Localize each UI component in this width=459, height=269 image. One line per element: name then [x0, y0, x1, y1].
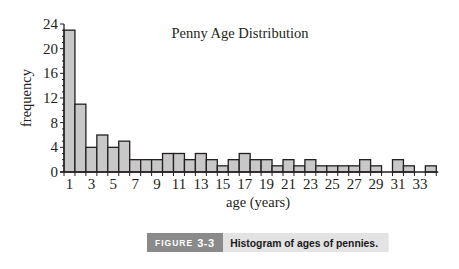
figure-number: 3-3: [197, 237, 214, 249]
histogram-bar: [206, 160, 217, 172]
histogram-bar: [228, 160, 239, 172]
y-tick-label: 24: [43, 16, 59, 32]
histogram-bar: [141, 160, 152, 172]
histogram-bar: [239, 154, 250, 173]
x-tick-label: 5: [110, 176, 118, 192]
x-tick-label: 11: [172, 176, 186, 192]
figure-caption: FIGURE 3-3 Histogram of ages of pennies.: [147, 233, 407, 252]
histogram-bar: [272, 166, 283, 172]
x-tick-label: 27: [347, 176, 363, 192]
x-tick-label: 21: [281, 176, 296, 192]
histogram-bar: [97, 135, 108, 172]
x-tick-label: 23: [303, 176, 318, 192]
histogram-bar: [393, 160, 404, 172]
histogram-bar: [316, 166, 327, 172]
x-tick-label: 3: [88, 176, 96, 192]
histogram-bar: [108, 147, 119, 172]
x-tick-label: 9: [153, 176, 161, 192]
histogram-bar: [86, 147, 97, 172]
y-axis-label: frequency: [18, 68, 34, 127]
y-tick-label: 0: [51, 164, 59, 180]
histogram-bar: [119, 141, 130, 172]
histogram-bar: [163, 154, 174, 173]
histogram-bar: [371, 166, 382, 172]
y-tick-label: 4: [51, 139, 59, 155]
y-tick-label: 20: [43, 41, 58, 57]
x-tick-label: 7: [131, 176, 139, 192]
histogram-bar: [250, 160, 261, 172]
x-tick-label: 1: [66, 176, 74, 192]
figure-prefix: FIGURE: [155, 238, 193, 248]
histogram-bar: [327, 166, 338, 172]
histogram-bar: [403, 166, 414, 172]
histogram-bar: [64, 30, 75, 172]
histogram-bar: [261, 160, 272, 172]
histogram-bar: [349, 166, 360, 172]
chart-title: Penny Age Distribution: [172, 25, 310, 41]
x-tick-label: 29: [369, 176, 384, 192]
histogram-bar: [152, 160, 163, 172]
x-tick-label: 19: [259, 176, 274, 192]
histogram-bar: [425, 166, 436, 172]
y-tick-label: 16: [43, 65, 59, 81]
histogram-bar: [305, 160, 316, 172]
x-tick-label: 31: [390, 176, 405, 192]
x-tick-label: 13: [193, 176, 208, 192]
histogram-bar: [283, 160, 294, 172]
histogram-chart: 0481216202413579111315171921232527293133…: [0, 0, 459, 215]
x-axis-label: age (years): [226, 194, 290, 211]
histogram-bar: [360, 160, 371, 172]
y-tick-label: 12: [43, 90, 58, 106]
histogram-bar: [195, 154, 206, 173]
histogram-bar: [130, 160, 141, 172]
x-tick-label: 33: [412, 176, 427, 192]
x-tick-label: 15: [215, 176, 230, 192]
x-tick-label: 17: [237, 176, 253, 192]
figure-number-badge: FIGURE 3-3: [147, 233, 223, 252]
caption-text: Histogram of ages of pennies.: [223, 233, 389, 252]
histogram-bar: [75, 104, 86, 172]
histogram-bar: [174, 154, 185, 173]
y-tick-label: 8: [51, 115, 59, 131]
histogram-bar: [217, 166, 228, 172]
histogram-bars: [64, 30, 436, 172]
x-tick-label: 25: [325, 176, 340, 192]
histogram-bar: [338, 166, 349, 172]
histogram-bar: [184, 160, 195, 172]
histogram-bar: [294, 166, 305, 172]
